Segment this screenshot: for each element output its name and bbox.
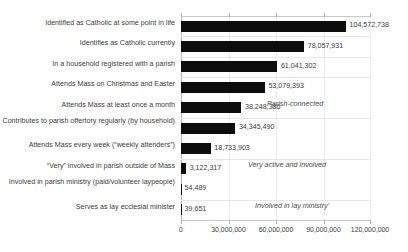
category-label: Serves as lay ecclesial minister (0, 203, 175, 211)
bar-value-label: 18,733,903 (214, 143, 250, 154)
annotation-parish-connected: Parish-connected (267, 99, 323, 108)
x-tick-label: 60,000,000 (259, 226, 294, 233)
bar-value-label: 34,345,490 (239, 122, 275, 133)
bar-value-label: 39,651 (185, 204, 207, 215)
bar-value-label: 78,057,931 (308, 41, 344, 52)
tick-30m (229, 13, 230, 17)
x-axis-labels: 0 30,000,000 60,000,000 90,000,000 120,0… (181, 226, 371, 238)
tick-90m (324, 13, 325, 17)
tick-bottom-0 (181, 220, 182, 224)
category-label: Identified as Catholic at some point in … (0, 19, 175, 27)
bar-value-label: 53,079,393 (268, 81, 304, 92)
x-tick-label: 0 (179, 226, 183, 233)
category-label: Attends Mass every week (“weekly attende… (0, 141, 175, 149)
category-label: Attends Mass at least once a month (0, 101, 175, 109)
bar-chart: Identified as Catholic at some point in … (0, 0, 408, 252)
bar (181, 123, 235, 134)
category-label: Involved in parish ministry (paid/volunt… (0, 178, 175, 186)
tick-bottom-120m (370, 220, 371, 224)
bar (181, 41, 304, 52)
category-label: Identifies as Catholic currently (0, 39, 175, 47)
plot-area: 104,572,738 78,057,931 61,041,302 53,079… (181, 16, 371, 220)
bar (181, 163, 186, 174)
tick-60m (276, 13, 277, 17)
tick-bottom-90m (324, 220, 325, 224)
category-label: “Very” involved in parish outside of Mas… (0, 162, 175, 170)
band-rule (181, 77, 371, 78)
bar (181, 61, 277, 72)
bar (181, 21, 346, 32)
bar-value-label: 54,489 (185, 183, 207, 194)
tick-120m (370, 13, 371, 17)
bar (181, 143, 211, 154)
bar (181, 102, 241, 113)
bar (181, 82, 265, 93)
band-rule (181, 57, 371, 58)
tick-bottom-30m (229, 220, 230, 224)
bar-value-label: 104,572,738 (350, 20, 389, 31)
band-rule (181, 36, 371, 37)
bar-value-label: 61,041,302 (281, 61, 317, 72)
band-rule (181, 118, 371, 119)
x-tick-label: 120,000,000 (351, 226, 389, 233)
x-tick-label: 90,000,000 (306, 226, 341, 233)
bar-value-label: 3,122,317 (190, 163, 222, 174)
category-label: Contributes to parish offertory regularl… (0, 117, 175, 125)
category-label: In a household registered with a parish (0, 60, 175, 68)
tick-0 (181, 13, 182, 17)
annotation-very-active: Very active and involved (248, 160, 326, 169)
x-tick-label: 30,000,000 (211, 226, 246, 233)
tick-bottom-60m (276, 220, 277, 224)
annotation-lay-ministry: Involved in lay ministry' (255, 201, 329, 210)
category-label: Attends Mass on Christmas and Easter (0, 80, 175, 88)
